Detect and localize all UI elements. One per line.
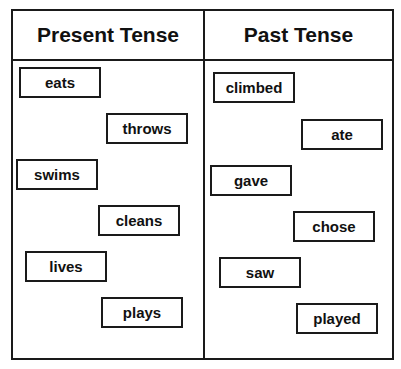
word-card-gave[interactable]: gave — [210, 165, 292, 196]
word-card-chose[interactable]: chose — [293, 211, 375, 242]
word-card-plays[interactable]: plays — [101, 297, 183, 328]
word-card-ate[interactable]: ate — [301, 119, 383, 150]
column-header-past: Past Tense — [205, 11, 392, 59]
word-card-eats[interactable]: eats — [19, 67, 101, 98]
word-card-lives[interactable]: lives — [25, 251, 107, 282]
column-divider — [203, 11, 205, 358]
word-card-throws[interactable]: throws — [106, 113, 188, 144]
word-card-swims[interactable]: swims — [16, 159, 98, 190]
word-card-cleans[interactable]: cleans — [98, 205, 180, 236]
word-card-climbed[interactable]: climbed — [213, 72, 295, 103]
column-header-present: Present Tense — [13, 11, 203, 59]
word-card-played[interactable]: played — [296, 303, 378, 334]
word-card-saw[interactable]: saw — [219, 257, 301, 288]
